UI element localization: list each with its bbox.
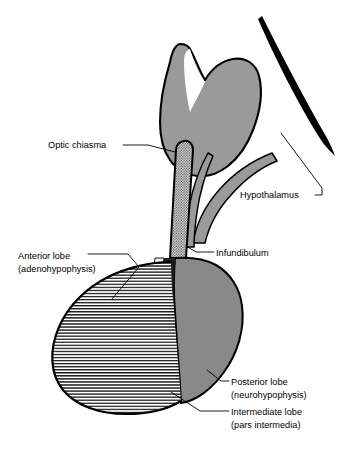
label-intermediate-lobe-line-1: (pars intermedia)	[231, 420, 300, 430]
label-anterior-lobe-line-0: Anterior lobe	[18, 251, 70, 261]
brainstem-arc	[258, 16, 335, 156]
label-infundibulum: Infundibulum	[216, 248, 269, 258]
label-anterior-lobe-line-1: (adenohypophysis)	[18, 264, 96, 274]
label-posterior-lobe-line-0: Posterior lobe	[231, 377, 288, 387]
label-posterior-lobe: Posterior lobe (neurohypophysis)	[231, 377, 307, 400]
label-infundibulum-line-0: Infundibulum	[216, 248, 269, 258]
label-intermediate-lobe: Intermediate lobe (pars intermedia)	[231, 407, 305, 430]
label-intermediate-lobe-line-0: Intermediate lobe	[231, 407, 302, 417]
label-optic-chiasma: Optic chiasma	[48, 140, 107, 150]
label-anterior-lobe: Anterior lobe (adenohypophysis)	[18, 251, 96, 274]
label-posterior-lobe-line-1: (neurohypophysis)	[231, 390, 307, 400]
label-optic-chiasma-line-0: Optic chiasma	[48, 140, 107, 150]
pituitary-gland-diagram: Optic chiasma Hypothalamus Infundibulum …	[0, 0, 340, 455]
diagram-canvas: Optic chiasma Hypothalamus Infundibulum …	[0, 0, 340, 455]
label-hypothalamus: Hypothalamus	[240, 190, 299, 200]
anterior-lobe-region	[40, 255, 190, 425]
label-hypothalamus-line-0: Hypothalamus	[240, 190, 299, 200]
leader-hypothalamus	[281, 133, 322, 195]
